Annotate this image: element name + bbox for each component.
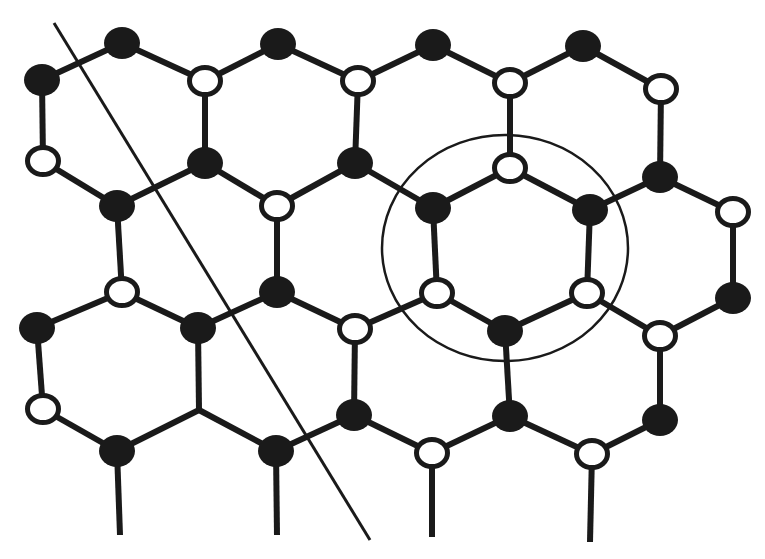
open-site	[107, 279, 138, 306]
filled-site	[337, 147, 373, 179]
filled-site	[187, 147, 223, 179]
open-site	[190, 68, 221, 95]
filled-site	[415, 192, 451, 224]
open-site	[495, 70, 526, 97]
filled-site	[492, 400, 528, 432]
filled-site	[642, 404, 678, 436]
filled-site	[487, 315, 523, 347]
open-site	[417, 440, 448, 467]
hexagonal-lattice-diagram	[0, 0, 765, 559]
open-site	[28, 148, 59, 175]
filled-site	[104, 27, 140, 59]
lattice-sites	[19, 27, 751, 468]
filled-site	[19, 312, 55, 344]
open-site	[262, 193, 293, 220]
open-site	[577, 441, 608, 468]
open-site	[646, 76, 677, 103]
filled-site	[99, 435, 135, 467]
open-site	[422, 280, 453, 307]
lattice-bonds	[37, 43, 733, 542]
open-site	[718, 199, 749, 226]
filled-site	[258, 435, 294, 467]
filled-site	[715, 282, 751, 314]
filled-site	[24, 64, 60, 96]
open-site	[572, 280, 603, 307]
open-site	[645, 323, 676, 350]
open-site	[28, 396, 59, 423]
annotation-overlays	[54, 23, 628, 540]
open-site	[340, 316, 371, 343]
filled-site	[260, 28, 296, 60]
filled-site	[99, 190, 135, 222]
filled-site	[572, 194, 608, 226]
filled-site	[180, 312, 216, 344]
filled-site	[336, 399, 372, 431]
open-site	[343, 68, 374, 95]
filled-site	[642, 161, 678, 193]
filled-site	[415, 29, 451, 61]
open-site	[495, 155, 526, 182]
filled-site	[565, 30, 601, 62]
diagonal-cut-line	[54, 23, 370, 540]
filled-site	[259, 276, 295, 308]
